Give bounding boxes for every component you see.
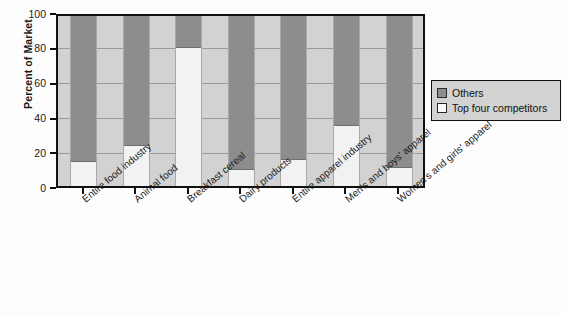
bar-segment-others [229,16,254,169]
y-tick-label: 0 [18,183,46,193]
y-tick-label: 100 [18,9,46,19]
bar-1 [70,16,97,186]
y-tick-label: 40 [18,113,46,123]
x-axis-category-label: Men's and boys' apparel [343,196,350,204]
x-axis-category-label: Dairy products [237,196,244,204]
y-tick-label: 20 [18,148,46,158]
y-tick-label: 60 [18,78,46,88]
bar-segment-others [176,16,201,47]
y-tick-label: 80 [18,43,46,53]
chart-figure: Percent of Market 100 80 60 40 20 0 Othe… [0,0,566,315]
bar-segment-top-four [71,161,96,187]
x-axis-category-label: Entire food industry [80,196,87,204]
x-axis-category-label: Entire apparel industry [290,196,297,204]
legend: Others Top four competitors [431,80,561,121]
bar-3 [175,16,202,186]
bar-segment-others [124,16,149,145]
legend-label: Others [452,87,484,99]
bar-segment-others [71,16,96,161]
legend-item-top-four[interactable]: Top four competitors [437,100,555,115]
legend-swatch-others [437,88,447,98]
bar-segment-others [334,16,359,125]
x-axis-category-label: Animal food [132,196,139,204]
x-axis-category-label: Breakfast cereal [185,196,192,204]
bar-segment-top-four [176,47,201,186]
legend-label: Top four competitors [452,102,547,114]
legend-item-others[interactable]: Others [437,85,555,100]
legend-swatch-top-four [437,103,447,113]
x-axis-category-label: Women's and girls' apparel [395,196,402,204]
bar-segment-others [281,16,306,159]
